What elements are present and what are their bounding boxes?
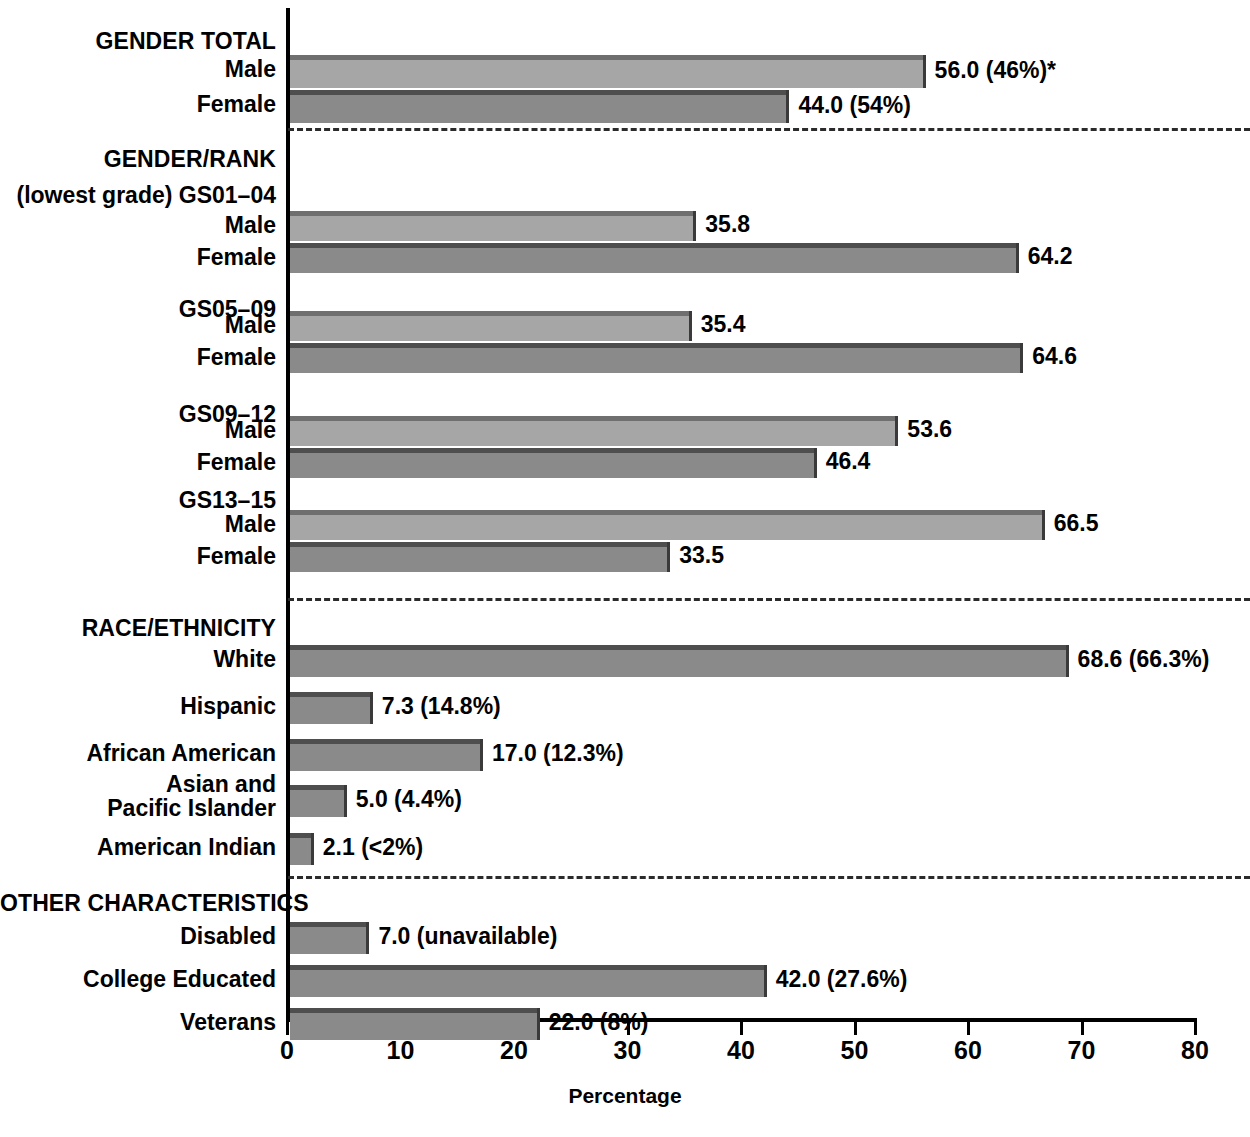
- row-label: Male: [0, 212, 282, 239]
- bar-right-edge: [814, 448, 817, 478]
- bar: [290, 542, 670, 572]
- row-label: Male: [0, 312, 282, 339]
- row-label: Female: [0, 91, 282, 118]
- bar-right-edge: [764, 965, 767, 997]
- section-divider: [288, 598, 1250, 601]
- bar-value-label: 68.6 (66.3%): [1078, 646, 1210, 673]
- row-label: American Indian: [0, 834, 282, 861]
- row-label: Female: [0, 449, 282, 476]
- bar-body: [290, 421, 898, 446]
- x-tick-70: [1081, 1022, 1084, 1035]
- x-tick-label-50: 50: [841, 1036, 869, 1065]
- x-axis-title: Percentage: [0, 1084, 1250, 1108]
- x-tick-label-70: 70: [1068, 1036, 1096, 1065]
- bar-value-label: 35.4: [701, 311, 746, 338]
- bar-body: [290, 790, 347, 817]
- bar: [290, 211, 696, 241]
- bar-value-label: 33.5: [679, 542, 724, 569]
- bar: [290, 90, 789, 123]
- row-label: White: [0, 646, 282, 673]
- bar-body: [290, 970, 767, 997]
- row-label: Disabled: [0, 923, 282, 950]
- x-tick-label-60: 60: [954, 1036, 982, 1065]
- row-label: Hispanic: [0, 693, 282, 720]
- bar-right-edge: [786, 90, 789, 123]
- bar-right-edge: [689, 311, 692, 341]
- bar: [290, 55, 926, 88]
- bar-value-label: 7.0 (unavailable): [378, 923, 557, 950]
- section-heading-gender-total: GENDER TOTAL: [0, 28, 282, 55]
- bar-right-edge: [480, 739, 483, 771]
- group-label-gs13-15: GS13–15: [0, 487, 282, 514]
- bar-value-label: 64.6: [1032, 343, 1077, 370]
- bar-body: [290, 316, 692, 341]
- row-label: Male: [0, 56, 282, 83]
- section-divider: [288, 128, 1250, 131]
- bar-value-label: 44.0 (54%): [798, 92, 911, 119]
- x-tick-40: [740, 1022, 743, 1035]
- horizontal-bar-chart: 01020304050607080 GENDER TOTALMale56.0 (…: [0, 0, 1250, 1137]
- bar-right-edge: [537, 1008, 540, 1040]
- bar-body: [290, 744, 483, 771]
- section-heading-race-ethnicity: RACE/ETHNICITY: [0, 615, 282, 642]
- row-label: Female: [0, 244, 282, 271]
- bar: [290, 833, 314, 865]
- bar-right-edge: [667, 542, 670, 572]
- bar: [290, 448, 817, 478]
- row-label: Asian andPacific Islander: [0, 772, 282, 820]
- bar: [290, 692, 373, 724]
- row-label: Female: [0, 543, 282, 570]
- x-tick-50: [854, 1022, 857, 1035]
- x-tick-80: [1194, 1022, 1197, 1035]
- x-tick-label-10: 10: [387, 1036, 415, 1065]
- bar-body: [290, 697, 373, 724]
- bar-right-edge: [366, 922, 369, 954]
- bar-value-label: 64.2: [1028, 243, 1073, 270]
- bar-right-edge: [311, 833, 314, 865]
- row-label: African American: [0, 740, 282, 767]
- bar-right-edge: [1066, 645, 1069, 677]
- bar-value-label: 17.0 (12.3%): [492, 740, 624, 767]
- bar-body: [290, 248, 1019, 273]
- bar-right-edge: [895, 416, 898, 446]
- bar: [290, 645, 1069, 677]
- section-divider: [288, 876, 1250, 879]
- bar-right-edge: [370, 692, 373, 724]
- bar-value-label: 53.6: [907, 416, 952, 443]
- row-label: Veterans: [0, 1009, 282, 1036]
- bar-body: [290, 650, 1069, 677]
- row-label: Female: [0, 344, 282, 371]
- bar: [290, 311, 692, 341]
- bar-value-label: 2.1 (<2%): [323, 834, 423, 861]
- row-label: College Educated: [0, 966, 282, 993]
- bar-body: [290, 216, 696, 241]
- bar: [290, 510, 1045, 540]
- bar: [290, 965, 767, 997]
- x-tick-0: [286, 1022, 289, 1035]
- bar-value-label: 5.0 (4.4%): [356, 786, 462, 813]
- bar: [290, 416, 898, 446]
- bar: [290, 785, 347, 817]
- bar-right-edge: [1042, 510, 1045, 540]
- x-tick-label-20: 20: [500, 1036, 528, 1065]
- bar: [290, 922, 369, 954]
- bar-right-edge: [1020, 343, 1023, 373]
- bar-body: [290, 60, 926, 88]
- bar-value-label: 46.4: [826, 448, 871, 475]
- row-label: Male: [0, 417, 282, 444]
- x-tick-label-30: 30: [614, 1036, 642, 1065]
- bar-right-edge: [1016, 243, 1019, 273]
- bar-right-edge: [344, 785, 347, 817]
- bar-value-label: 42.0 (27.6%): [776, 966, 908, 993]
- section-heading-gender-rank: GENDER/RANK: [0, 146, 282, 173]
- bar-right-edge: [923, 55, 926, 88]
- bar-body: [290, 1013, 540, 1040]
- bar-value-label: 22.0 (8%): [549, 1009, 649, 1036]
- bar-right-edge: [693, 211, 696, 241]
- bar-body: [290, 95, 789, 123]
- bar-value-label: 56.0 (46%)*: [935, 57, 1056, 84]
- bar-value-label: 7.3 (14.8%): [382, 693, 501, 720]
- x-tick-label-0: 0: [280, 1036, 294, 1065]
- bar-value-label: 66.5: [1054, 510, 1099, 537]
- bar: [290, 1008, 540, 1040]
